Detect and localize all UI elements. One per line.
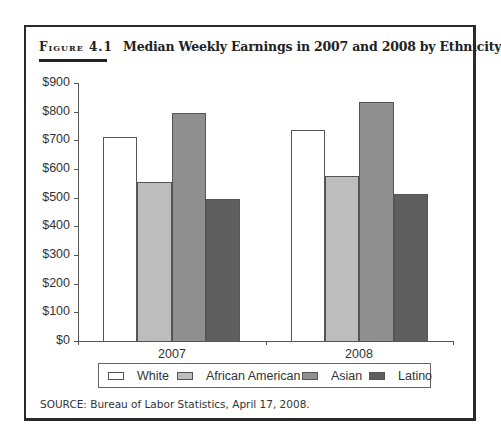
y-axis [78, 83, 79, 341]
bar-white-2008 [291, 130, 325, 341]
x-tick [453, 341, 454, 345]
bar-african-american-2008 [325, 176, 359, 341]
y-tick [74, 312, 78, 313]
legend: White African American Asian Latino [98, 363, 431, 388]
y-tick [74, 284, 78, 285]
y-tick-label: $300 [20, 247, 70, 261]
legend-swatch-white [108, 372, 124, 380]
x-tick-label: 2008 [319, 347, 399, 361]
legend-swatch-african-american [177, 372, 193, 380]
legend-swatch-asian [302, 372, 318, 380]
legend-label: White [137, 369, 169, 383]
legend-label: African American [206, 369, 300, 383]
y-tick [74, 169, 78, 170]
chart-title: Median Weekly Earnings in 2007 and 2008 … [123, 39, 501, 54]
y-tick-label: $900 [20, 75, 70, 89]
x-tick [266, 341, 267, 345]
legend-item-latino: Latino [369, 369, 432, 383]
y-tick [74, 140, 78, 141]
y-tick-label: $700 [20, 132, 70, 146]
legend-label: Latino [398, 369, 432, 383]
y-tick-label: $600 [20, 161, 70, 175]
x-tick [78, 341, 79, 345]
bar-latino-2007 [206, 199, 240, 341]
legend-swatch-latino [369, 372, 385, 380]
y-tick-label: $200 [20, 276, 70, 290]
y-tick [74, 226, 78, 227]
bar-african-american-2007 [137, 182, 171, 341]
bar-asian-2008 [359, 102, 393, 341]
y-tick-label: $100 [20, 304, 70, 318]
figure-label-underline [39, 59, 107, 62]
figure-label: Figure 4.1 [39, 40, 113, 54]
legend-label: Asian [331, 369, 362, 383]
y-tick [74, 83, 78, 84]
y-tick-label: $0 [20, 333, 70, 347]
legend-item-african-american: African American [177, 369, 300, 383]
bar-latino-2008 [394, 194, 428, 341]
source-note: SOURCE: Bureau of Labor Statistics, Apri… [40, 398, 310, 410]
legend-item-white: White [108, 369, 169, 383]
bar-asian-2007 [172, 113, 206, 341]
y-tick [74, 112, 78, 113]
legend-item-asian: Asian [302, 369, 362, 383]
y-tick-label: $800 [20, 104, 70, 118]
y-tick-label: $400 [20, 218, 70, 232]
y-tick-label: $500 [20, 190, 70, 204]
bar-white-2007 [103, 137, 137, 341]
y-tick [74, 198, 78, 199]
y-tick [74, 255, 78, 256]
x-tick-label: 2007 [132, 347, 212, 361]
